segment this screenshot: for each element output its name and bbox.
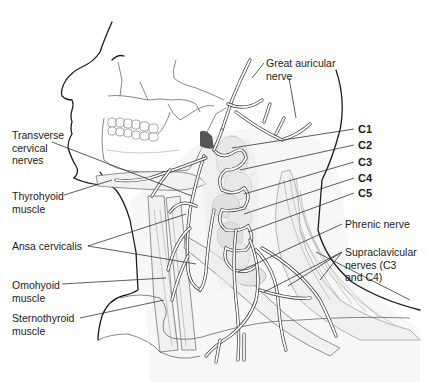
label-supraclavicular-nerves: Supraclavicular nerves (C3 and C4) <box>345 246 417 284</box>
label-c3: C3 <box>358 156 372 169</box>
label-thyrohyoid-muscle: Thyrohyoid muscle <box>12 190 64 215</box>
face-profile <box>62 22 157 187</box>
label-c5: C5 <box>358 187 372 200</box>
label-c4: C4 <box>358 172 372 185</box>
label-transverse-cervical-nerves: Transverse cervical nerves <box>12 129 64 167</box>
label-sternothyroid-muscle: Sternothyroid muscle <box>12 312 74 337</box>
label-omohyoid-muscle: Omohyoid muscle <box>12 279 60 304</box>
anatomy-figure: Transverse cervical nerves Thyrohyoid mu… <box>0 0 430 382</box>
label-ansa-cervicalis: Ansa cervicalis <box>12 240 82 253</box>
label-phrenic-nerve: Phrenic nerve <box>345 218 410 231</box>
label-c2: C2 <box>358 139 372 152</box>
label-great-auricular-nerve: Great auricular nerve <box>266 57 335 82</box>
label-c1: C1 <box>358 123 372 136</box>
neck-front-outline <box>98 172 138 340</box>
